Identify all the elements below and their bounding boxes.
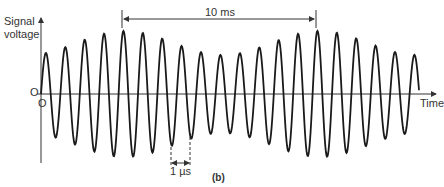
- figure-caption: (b): [212, 172, 225, 183]
- envelope-period-label: 10 ms: [205, 6, 235, 18]
- y-axis-label: Signal voltage: [4, 15, 39, 41]
- carrier-period-label: 1 µs: [170, 165, 191, 177]
- y-axis-label-line1: Signal: [4, 15, 39, 28]
- x-axis-label: Time: [420, 97, 444, 109]
- y-axis-label-line2: voltage: [4, 28, 39, 41]
- x-zero-label: O: [38, 97, 47, 109]
